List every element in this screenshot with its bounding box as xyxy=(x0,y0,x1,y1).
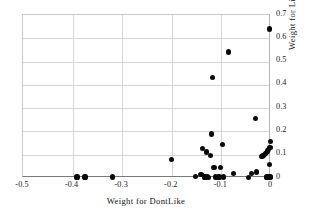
x-axis-tick-label: -0.5 xyxy=(2,180,42,189)
data-point xyxy=(193,174,198,179)
data-point xyxy=(110,174,115,179)
data-point xyxy=(254,169,259,174)
data-point xyxy=(267,145,272,150)
gridline-vertical xyxy=(73,15,74,176)
y-axis-tick-label: 0.5 xyxy=(276,55,306,64)
data-point xyxy=(209,131,214,136)
data-point xyxy=(220,142,225,147)
data-point xyxy=(268,139,273,144)
data-point xyxy=(210,75,215,80)
x-axis-tick-label: 0 xyxy=(250,180,290,189)
data-point xyxy=(231,171,236,176)
scatter-chart-figure: Weight for DontLike Weight for Like -0.5… xyxy=(0,0,316,219)
data-point xyxy=(267,162,272,167)
gridline-horizontal xyxy=(23,85,269,86)
data-point xyxy=(211,165,216,170)
y-axis-tick-label: 0.6 xyxy=(276,32,306,41)
x-axis-title: Weight for DontLike xyxy=(22,196,270,206)
data-point xyxy=(208,153,213,158)
y-axis-title: Weight for Like xyxy=(287,0,297,50)
data-point xyxy=(253,116,258,121)
data-point xyxy=(74,174,79,179)
x-axis-tick-label: -0.2 xyxy=(151,180,191,189)
y-axis-tick-label: 0.7 xyxy=(276,9,306,18)
y-axis-tick-label: 0.3 xyxy=(276,102,306,111)
data-point xyxy=(82,174,87,179)
data-point xyxy=(226,49,231,54)
gridline-vertical xyxy=(221,15,222,176)
gridline-horizontal xyxy=(23,108,269,109)
gridline-vertical xyxy=(172,15,173,176)
y-axis-tick-label: 0.1 xyxy=(276,148,306,157)
x-axis-tick-label: -0.4 xyxy=(52,180,92,189)
gridline-horizontal xyxy=(23,62,269,63)
gridline-horizontal xyxy=(23,155,269,156)
y-axis-tick-label: 0 xyxy=(276,172,306,181)
plot-area xyxy=(22,14,270,177)
x-axis-tick-label: -0.1 xyxy=(200,180,240,189)
y-axis-tick-label: 0.4 xyxy=(276,78,306,87)
gridline-horizontal xyxy=(23,131,269,132)
data-point xyxy=(169,157,174,162)
data-point xyxy=(267,26,272,31)
data-point xyxy=(249,171,254,176)
gridline-horizontal xyxy=(23,38,269,39)
y-axis-tick-label: 0.2 xyxy=(276,125,306,134)
x-axis-tick-label: -0.3 xyxy=(101,180,141,189)
gridline-vertical xyxy=(122,15,123,176)
data-point xyxy=(221,174,226,179)
